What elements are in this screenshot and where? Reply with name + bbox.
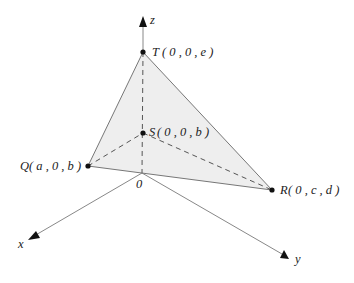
point-t <box>140 49 145 54</box>
origin-label: 0 <box>136 177 143 191</box>
point-q <box>85 163 90 168</box>
x-axis <box>34 173 142 236</box>
x-axis-label: x <box>17 237 24 251</box>
point-r <box>269 187 274 192</box>
z-axis-label: z <box>149 13 155 27</box>
x-axis-arrow-icon <box>28 231 40 240</box>
point-s-coords: ( 0 , 0 , b ) <box>157 125 209 139</box>
y-axis-arrow-icon <box>280 250 289 259</box>
point-s <box>140 130 145 135</box>
point-r-name: R <box>279 183 288 197</box>
point-s-name: S <box>149 125 156 139</box>
point-t-name: T <box>152 45 160 59</box>
y-axis-label: y <box>293 252 301 266</box>
point-t-coords: ( 0 , 0 , e ) <box>162 45 213 59</box>
point-q-name: Q <box>20 159 29 173</box>
z-axis-arrow-icon <box>139 16 147 27</box>
point-r-coords: ( 0 , c , d ) <box>288 183 339 197</box>
tetrahedron-diagram: z x y 0 T ( 0 , 0 , e ) S ( 0 , 0 , b ) … <box>0 0 354 283</box>
point-q-coords: ( a , 0 , b ) <box>29 159 81 173</box>
